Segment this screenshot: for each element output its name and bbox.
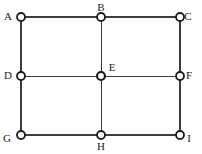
node-label-i: I (183, 133, 195, 144)
node-label-h: H (95, 141, 107, 152)
node-label-b: B (95, 2, 107, 13)
node-label-d: D (2, 70, 14, 81)
node-marker-a[interactable] (17, 13, 25, 21)
node-label-g: G (1, 133, 13, 144)
node-marker-e[interactable] (97, 72, 105, 80)
node-label-f: F (183, 70, 195, 81)
node-marker-h[interactable] (97, 131, 105, 139)
grid-diagram-figure: ABCDEFGHI (0, 0, 202, 154)
node-label-e: E (106, 62, 118, 73)
node-label-c: C (182, 11, 194, 22)
node-label-a: A (2, 11, 14, 22)
node-marker-d[interactable] (17, 72, 25, 80)
node-marker-b[interactable] (97, 13, 105, 21)
grid-diagram-canvas (0, 0, 202, 154)
node-marker-g[interactable] (17, 131, 25, 139)
